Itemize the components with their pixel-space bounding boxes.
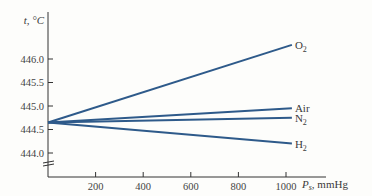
- x-ticks: 2004006008001000: [88, 172, 297, 192]
- x-axis-title: Ps, mmHg: [301, 178, 348, 192]
- x-tick-label: 800: [231, 181, 247, 192]
- series-lines: O2AirN2H2: [48, 39, 310, 153]
- series-label-h2: H2: [295, 138, 307, 153]
- y-tick-label: 445.0: [20, 101, 44, 112]
- y-tick-label: 444.0: [20, 148, 44, 159]
- y-tick-label: 444.5: [20, 124, 44, 135]
- y-tick-label: 445.5: [20, 77, 44, 88]
- x-tick-label: 200: [88, 181, 104, 192]
- series-label-o2: O2: [295, 39, 307, 54]
- series-line-h2: [48, 122, 292, 143]
- y-axis-title: t, °C: [24, 14, 45, 26]
- chart: 446.0445.5445.0444.5444.0 20040060080010…: [0, 0, 372, 196]
- x-tick-label: 400: [135, 181, 151, 192]
- y-tick-label: 446.0: [20, 54, 44, 65]
- x-tick-label: 1000: [276, 181, 297, 192]
- x-tick-label: 600: [183, 181, 199, 192]
